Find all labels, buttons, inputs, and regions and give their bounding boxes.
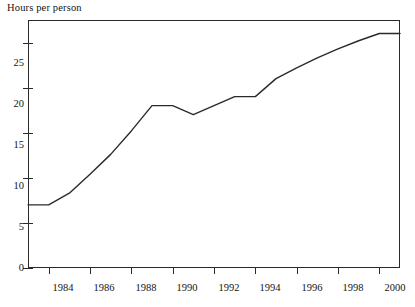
y-axis-ticks	[23, 44, 33, 269]
chart-svg-layer	[0, 0, 415, 307]
data-series-line	[28, 34, 400, 205]
chart-figure: Hours per person 25 20 15 10 5 0 1984 19…	[0, 0, 415, 307]
x-axis-ticks	[50, 268, 380, 274]
